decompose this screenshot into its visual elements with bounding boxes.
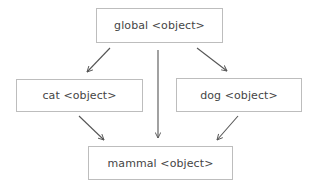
node-global-label: global <object> [114,19,205,32]
node-mammal: mammal <object> [88,146,233,180]
node-mammal-label: mammal <object> [107,157,213,170]
node-dog: dog <object> [176,78,302,112]
node-cat: cat <object> [16,79,143,112]
edge-global-to-dog [197,48,227,71]
node-dog-label: dog <object> [200,89,278,102]
node-global: global <object> [96,8,223,43]
edge-cat-to-mammal [79,116,104,140]
node-cat-label: cat <object> [42,89,116,102]
edge-dog-to-mammal [217,116,238,140]
edge-global-to-cat [87,48,110,72]
